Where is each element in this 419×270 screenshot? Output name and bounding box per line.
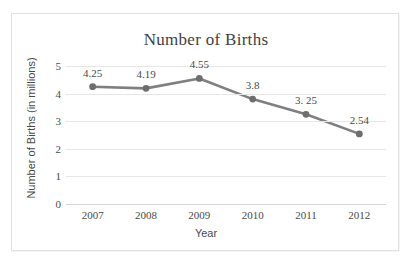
y-tick-label: 3 [56,115,62,127]
data-point-marker [89,83,96,90]
x-tick-label: 2008 [135,209,157,221]
gridline [66,176,386,177]
y-tick-label: 4 [56,88,62,100]
plot-area: 4.254.194.553.83. 252.54 [66,66,386,204]
y-axis-tick-labels: 543210 [42,66,61,204]
y-tick-label: 1 [56,170,62,182]
data-point-marker [143,85,150,92]
chart-screenshot: Number of Births Number of Births (in mi… [0,0,419,270]
y-tick-label: 5 [56,60,62,72]
data-point-marker [249,96,256,103]
y-tick-label: 2 [56,143,62,155]
data-point-label: 3. 25 [295,94,317,106]
data-point-label: 2.54 [350,114,369,126]
gridline [66,121,386,122]
x-tick-label: 2007 [82,209,104,221]
chart-title: Number of Births [12,30,400,50]
y-axis-title: Number of Births (in millions) [25,53,37,203]
gridline [66,66,386,67]
data-point-marker [303,111,310,118]
data-point-label: 3.8 [246,79,260,91]
x-tick-label: 2011 [295,209,317,221]
gridline [66,149,386,150]
y-tick-label: 0 [56,198,62,210]
data-point-marker [356,130,363,137]
line-series [66,66,386,204]
data-point-label: 4.55 [190,58,209,70]
data-point-label: 4.19 [136,68,155,80]
chart-frame: Number of Births Number of Births (in mi… [11,13,399,251]
series-line [93,78,360,133]
gridline [66,94,386,95]
x-axis-tick-labels: 200720082009201020112012 [66,209,386,225]
x-tick-label: 2012 [348,209,370,221]
x-tick-label: 2009 [188,209,210,221]
x-tick-label: 2010 [242,209,264,221]
x-axis-title: Year [12,227,400,239]
data-point-marker [196,75,203,82]
data-point-label: 4.25 [83,67,102,79]
x-axis-baseline [66,204,386,205]
